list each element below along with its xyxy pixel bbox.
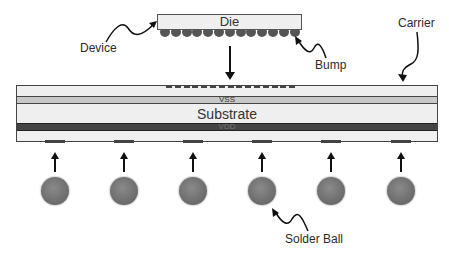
bump	[171, 29, 181, 37]
top-pad	[289, 86, 295, 88]
top-pad	[254, 86, 260, 88]
vdd-layer: VDD	[17, 123, 437, 131]
solder-ball-arrow-icon	[268, 205, 312, 233]
up-arrow-icon	[396, 152, 406, 172]
bump-arrow-icon	[290, 36, 330, 60]
up-arrow-icon	[257, 152, 267, 172]
bump	[192, 29, 202, 37]
top-pad	[219, 86, 225, 88]
solder-ball	[179, 177, 207, 205]
bump	[246, 29, 256, 37]
bump	[279, 29, 289, 37]
bump	[268, 29, 278, 37]
top-pad	[245, 86, 251, 88]
top-pad	[263, 86, 269, 88]
solder-ball	[110, 177, 138, 205]
solder-ball	[317, 177, 345, 205]
top-pad	[175, 86, 181, 88]
bump	[236, 29, 246, 37]
solder-ball-label: Solder Ball	[285, 232, 343, 246]
solder-ball	[387, 177, 415, 205]
top-pad	[236, 86, 242, 88]
bump	[160, 29, 170, 37]
bump	[182, 29, 192, 37]
top-pad	[210, 86, 216, 88]
bump	[225, 29, 235, 37]
up-arrow-icon	[50, 152, 60, 172]
bottom-pad	[45, 140, 65, 143]
bottom-pad	[391, 140, 411, 143]
carrier-label: Carrier	[398, 16, 435, 30]
substrate-label: Substrate	[197, 106, 257, 122]
up-arrow-icon	[326, 152, 336, 172]
substrate-layer: Substrate	[17, 104, 437, 124]
top-pad	[280, 86, 286, 88]
device-arrow-icon	[100, 14, 160, 44]
bottom-pad	[114, 140, 134, 143]
bottom-pad	[183, 140, 203, 143]
die: Die	[157, 14, 302, 30]
bump-label: Bump	[315, 58, 346, 72]
carrier: VSS Substrate VDD	[16, 85, 438, 142]
top-pad	[166, 86, 172, 88]
top-pad	[228, 86, 234, 88]
top-pad	[184, 86, 190, 88]
top-pad	[272, 86, 278, 88]
vss-label: VSS	[219, 95, 235, 104]
solder-ball	[248, 177, 276, 205]
carrier-arrow-icon	[395, 30, 425, 82]
top-pad	[201, 86, 207, 88]
down-arrow-icon	[224, 46, 236, 80]
bump	[214, 29, 224, 37]
up-arrow-icon	[188, 152, 198, 172]
up-arrow-icon	[119, 152, 129, 172]
solder-ball	[41, 177, 69, 205]
bottom-pad	[252, 140, 272, 143]
bump	[257, 29, 267, 37]
vdd-label: VDD	[219, 122, 236, 131]
bump	[203, 29, 213, 37]
vss-layer: VSS	[17, 96, 437, 104]
die-label: Die	[220, 14, 240, 29]
bottom-pad	[321, 140, 341, 143]
top-pad	[192, 86, 198, 88]
